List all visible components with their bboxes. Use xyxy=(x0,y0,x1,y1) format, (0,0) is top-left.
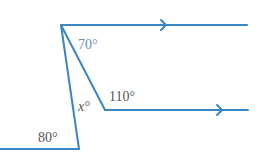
angle-diagram: 70° 110° x° 80° xyxy=(0,0,258,167)
angle-label-80: 80° xyxy=(38,130,58,145)
angle-label-70: 70° xyxy=(78,37,98,52)
angle-label-110: 110° xyxy=(109,89,135,104)
angle-label-x: x° xyxy=(77,99,90,114)
